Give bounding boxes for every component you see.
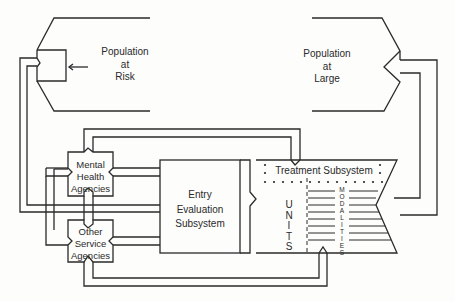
- service-system-flow-diagram: Population at Risk Population at Large M…: [0, 0, 455, 302]
- population-at-risk-label: Population at Risk: [88, 46, 162, 84]
- right-feedback-loops: [394, 60, 437, 215]
- treatment-subsystem-label: Treatment Subsystem: [270, 165, 378, 178]
- entry-treatment-connector: [240, 160, 256, 253]
- mental-health-agencies-label: Mental Health Agencies: [68, 159, 113, 195]
- units-label: U N I T S: [282, 200, 296, 253]
- entry-evaluation-label: Entry Evaluation Subsystem: [160, 188, 240, 232]
- modalities-label: M O D A L I T I E S: [336, 186, 348, 256]
- bottom-loops: [84, 253, 327, 286]
- agency-connector: [84, 196, 93, 220]
- agency-entry-arrows: [113, 168, 163, 245]
- population-at-large-label: Population at Large: [290, 48, 364, 86]
- other-service-agencies-label: Other Service Agencies: [68, 226, 113, 262]
- top-loops: [84, 129, 300, 160]
